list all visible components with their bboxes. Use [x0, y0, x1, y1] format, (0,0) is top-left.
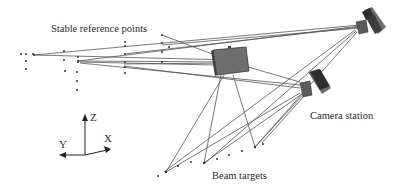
beam-target [254, 146, 256, 148]
x-axis [85, 150, 107, 155]
sight-line [204, 94, 302, 163]
reference-point [63, 59, 65, 61]
y-arrow-head [59, 152, 66, 158]
reference-point [77, 56, 79, 58]
label-stable-reference-points: Stable reference points [51, 23, 147, 34]
beam-target [190, 161, 192, 163]
sight-line [166, 75, 224, 172]
beam-target [262, 143, 264, 145]
sight-line [124, 66, 300, 88]
x-arrow-head [104, 146, 111, 153]
z-arrow-head [82, 114, 88, 121]
camera-lower [300, 69, 331, 97]
reference-point [168, 46, 170, 48]
reference-point [25, 60, 27, 62]
y-axis-label: Y [59, 138, 67, 150]
label-camera-station: Camera station [310, 110, 374, 121]
beam-target [177, 165, 179, 167]
sight-line [204, 75, 221, 163]
reference-point [20, 53, 22, 55]
sight-line [248, 67, 300, 82]
reference-point [124, 41, 126, 43]
x-axis-label: X [104, 132, 112, 144]
reference-point [76, 80, 78, 82]
sight-line [166, 93, 300, 172]
reference-point [76, 71, 78, 73]
reference-point [124, 53, 126, 55]
beam-target [228, 154, 230, 156]
reference-point [32, 53, 34, 55]
reference-point [161, 42, 163, 44]
photogrammetry-diagram: Z X Y Stable reference points Camera sta… [0, 0, 399, 190]
reference-point [161, 61, 163, 63]
camera-body [213, 47, 249, 75]
reference-point [124, 61, 126, 63]
reference-point [64, 70, 66, 72]
beam-target [216, 158, 218, 160]
beam-target [241, 150, 243, 152]
reference-point [63, 50, 65, 52]
reference-point [25, 53, 27, 55]
beam-target [203, 162, 205, 164]
reference-point [161, 51, 163, 53]
coordinate-axes: Z X Y [59, 111, 112, 158]
sight-line [162, 28, 360, 45]
reference-point [76, 89, 78, 91]
reference-point [124, 45, 126, 47]
camera-top-right [356, 7, 386, 34]
sight-lines [34, 25, 360, 172]
beam-target [157, 175, 159, 177]
reference-point [124, 72, 126, 74]
sight-line [78, 61, 230, 62]
beam-target [165, 171, 167, 173]
z-axis-label: Z [90, 111, 97, 123]
reference-point [124, 66, 126, 68]
sight-line [233, 75, 255, 147]
camera-middle [211, 46, 249, 76]
camera-button [228, 46, 231, 48]
label-beam-targets: Beam targets [212, 170, 267, 181]
reference-point [161, 34, 163, 36]
camera-lens [356, 20, 368, 34]
reference-point [25, 68, 27, 70]
sight-line [164, 30, 355, 172]
sight-line [255, 95, 303, 147]
reference-point [77, 61, 79, 63]
